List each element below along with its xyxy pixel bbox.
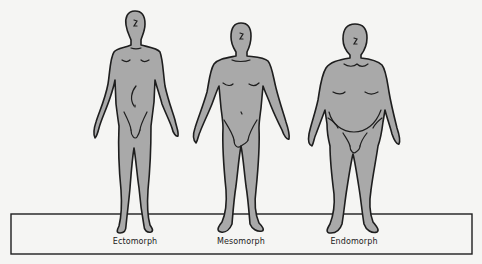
mesomorph-figure (194, 23, 290, 232)
label-ectomorph: Ectomorph (113, 237, 158, 246)
label-endomorph: Endomorph (330, 237, 377, 246)
platform-box (11, 214, 472, 254)
somatotype-diagram (0, 0, 482, 264)
ectomorph-figure (94, 11, 178, 233)
endomorph-figure (309, 24, 400, 233)
label-mesomorph: Mesomorph (217, 237, 265, 246)
